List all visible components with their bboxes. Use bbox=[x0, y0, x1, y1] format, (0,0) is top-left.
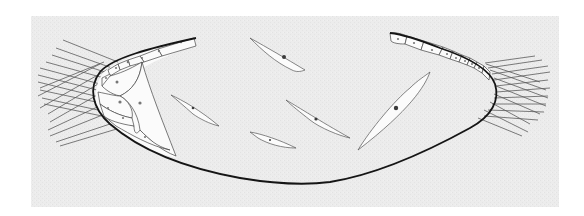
tissue-diagram bbox=[0, 0, 584, 216]
